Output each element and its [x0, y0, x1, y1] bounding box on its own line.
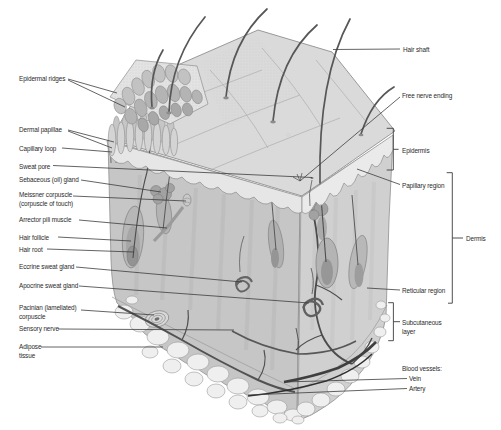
leader-hair-shaft [333, 49, 400, 50]
label-sensory-nerve: Sensory nerve [19, 324, 59, 333]
label-meissner-corpuscle: Meissner corpuscle (corpuscle of touch) [19, 190, 73, 208]
label-epidermal-ridges: Epidermal ridges [19, 74, 65, 83]
label-sweat-pore: Sweat pore [19, 162, 50, 171]
label-hair-follicle: Hair follicle [19, 233, 49, 242]
label-epidermis: Epidermis [402, 146, 430, 155]
leader-capillary-loop [62, 148, 112, 152]
label-apocrine-sweat-gland: Apocrine sweat gland [19, 281, 78, 290]
label-dermal-papillae: Dermal papillae [19, 125, 62, 134]
label-papillary-region: Papillary region [402, 181, 444, 190]
label-vein: Vein [409, 374, 421, 383]
label-sebaceous-gland: Sebaceous (oil) gland [19, 175, 79, 184]
label-pacinian-corpuscle: Pacinian (lamellated) corpuscle [19, 303, 77, 321]
label-hair-root: Hair root [19, 245, 43, 254]
skin-diagram-figure: Epidermal ridges Dermal papillae Capilla… [0, 0, 501, 430]
label-eccrine-sweat-gland: Eccrine sweat gland [19, 262, 74, 271]
meissner-corpuscle-structure [183, 194, 191, 206]
bracket-dermis [447, 173, 463, 304]
label-capillary-loop: Capillary loop [19, 144, 56, 153]
label-blood-vessels: Blood vessels: [402, 364, 442, 373]
label-dermis: Dermis [466, 234, 486, 243]
brackets [387, 128, 463, 340]
label-free-nerve-ending: Free nerve ending [402, 91, 452, 100]
label-arrector-pili: Arrector pili muscle [19, 215, 71, 224]
hair-root-bulb [127, 246, 138, 266]
label-reticular-region: Reticular region [402, 286, 445, 295]
label-hair-shaft: Hair shaft [403, 45, 429, 54]
surface-dimple [287, 134, 289, 136]
leader-epidermal-ridges-a [68, 79, 117, 93]
label-subcutaneous-layer: Subcutaneous layer [402, 318, 442, 336]
bracket-subcutaneous [388, 303, 400, 341]
label-adipose-tissue: Adipose tissue [19, 342, 41, 360]
label-artery: Artery [409, 384, 425, 393]
